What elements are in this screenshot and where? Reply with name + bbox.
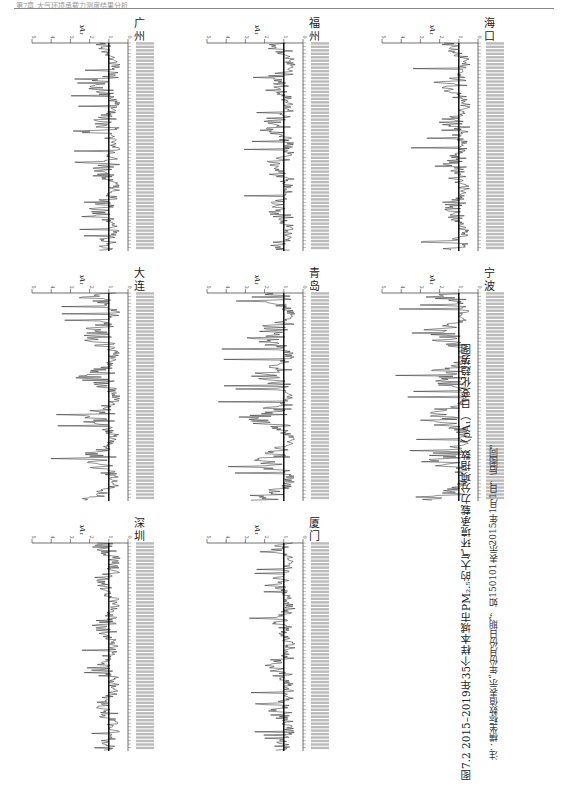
svg-text:5: 5 [206,535,212,538]
svg-text:ρA₁: ρA₁ [253,275,261,285]
line-chart: 012345 ρA₁ [20,275,170,505]
city-label: 宁波 [480,267,496,293]
svg-text:ρA₁: ρA₁ [78,275,86,285]
city-label: 海口 [480,17,496,43]
line-chart: 012345 ρA₁ [195,275,345,505]
line-chart: 012345 ρA₁ [195,25,345,255]
svg-text:1: 1 [108,35,114,38]
svg-text:1: 1 [108,285,114,288]
svg-text:3: 3 [244,35,250,38]
city-label: 大连 [130,267,146,293]
svg-text:3: 3 [244,285,250,288]
svg-text:ρA₁: ρA₁ [253,25,261,35]
svg-text:5: 5 [206,285,212,288]
city-label: 深圳 [130,517,146,543]
svg-text:4: 4 [225,35,231,38]
line-chart: 012345 ρA₁ [20,25,170,255]
svg-text:4: 4 [400,35,406,38]
svg-text:1: 1 [283,535,289,538]
line-chart: 012345 ρA₁ [20,525,170,755]
svg-text:3: 3 [69,535,75,538]
svg-text:1: 1 [283,35,289,38]
svg-text:3: 3 [419,285,425,288]
svg-text:3: 3 [244,535,250,538]
city-label: 青岛 [305,267,321,293]
chart-panel-7: 012345 ρA₁ 厦门 [195,525,345,755]
svg-text:2: 2 [89,285,95,288]
svg-text:3: 3 [419,35,425,38]
svg-text:4: 4 [400,285,406,288]
figure-caption: 图7.2 2015–2019年35个样本城市PM₂.₅的大气环境承载力分项指数（… [458,300,473,780]
svg-text:2: 2 [264,285,270,288]
chart-panel-3: 012345 ρA₁ 大连 [20,275,170,505]
svg-text:5: 5 [381,285,387,288]
chart-panel-4: 012345 ρA₁ 青岛 [195,275,345,505]
chart-panel-0: 012345 ρA₁ 广州 [20,25,170,255]
svg-text:ρA₁: ρA₁ [428,25,436,35]
svg-text:2: 2 [439,285,445,288]
chart-panel-6: 012345 ρA₁ 深圳 [20,525,170,755]
svg-text:4: 4 [50,535,56,538]
svg-text:3: 3 [69,285,75,288]
city-label: 广州 [130,17,146,43]
svg-text:4: 4 [225,535,231,538]
svg-text:1: 1 [458,35,464,38]
svg-text:ρA₁: ρA₁ [428,275,436,285]
chart-panel-1: 012345 ρA₁ 福州 [195,25,345,255]
svg-text:4: 4 [50,285,56,288]
svg-text:4: 4 [225,285,231,288]
svg-text:2: 2 [439,35,445,38]
svg-text:2: 2 [264,535,270,538]
svg-text:5: 5 [206,35,212,38]
chart-panel-2: 012345 ρA₁ 海口 [370,25,520,255]
svg-text:ρA₁: ρA₁ [78,25,86,35]
svg-text:5: 5 [31,535,37,538]
figure-note: 注：横坐标数值表示“年份月份日期”，如150101表示2015年1月1日，后图同… [486,320,499,760]
svg-text:2: 2 [89,535,95,538]
header-divider [14,8,554,9]
svg-text:3: 3 [69,35,75,38]
svg-text:1: 1 [458,285,464,288]
svg-text:5: 5 [381,35,387,38]
svg-text:ρA₁: ρA₁ [253,525,261,535]
svg-text:5: 5 [31,285,37,288]
line-chart: 012345 ρA₁ [370,25,520,255]
svg-text:2: 2 [264,35,270,38]
svg-text:2: 2 [89,35,95,38]
svg-text:4: 4 [50,35,56,38]
city-label: 厦门 [305,517,321,543]
svg-text:ρA₁: ρA₁ [78,525,86,535]
svg-text:1: 1 [283,285,289,288]
svg-text:1: 1 [108,535,114,538]
city-label: 福州 [305,17,321,43]
line-chart: 012345 ρA₁ [195,525,345,755]
svg-text:5: 5 [31,35,37,38]
